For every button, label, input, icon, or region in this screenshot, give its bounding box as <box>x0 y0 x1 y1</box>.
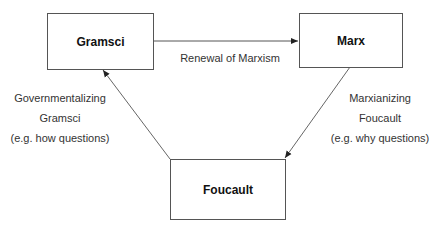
edge-label-governmentalizing-line1: Governmentalizing <box>10 88 110 108</box>
edge-label-marxianizing-line2: Foucault <box>330 108 430 128</box>
edge-label-governmentalizing-line2: Gramsci <box>10 108 110 128</box>
node-foucault: Foucault <box>170 159 286 220</box>
edge-label-marxianizing-line1: Marxianizing <box>330 88 430 108</box>
edge-label-governmentalizing-line3: (e.g. how questions) <box>10 128 110 148</box>
node-marx: Marx <box>299 13 403 68</box>
edge-label-marxianizing-line3: (e.g. why questions) <box>330 128 430 148</box>
node-gramsci-label: Gramsci <box>76 35 124 49</box>
arrow-foucault-to-gramsci <box>103 70 170 159</box>
node-gramsci: Gramsci <box>47 13 154 70</box>
node-foucault-label: Foucault <box>203 183 253 197</box>
edge-label-renewal: Renewal of Marxism <box>180 48 280 68</box>
edge-label-governmentalizing: Governmentalizing Gramsci (e.g. how ques… <box>10 88 110 148</box>
node-marx-label: Marx <box>337 34 365 48</box>
edge-label-marxianizing: Marxianizing Foucault (e.g. why question… <box>330 88 430 148</box>
